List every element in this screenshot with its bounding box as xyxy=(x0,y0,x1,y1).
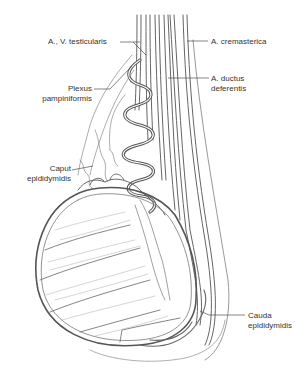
label-tail-of-epididymis: Cauda epididymidis xyxy=(248,311,292,330)
venous-network xyxy=(78,55,134,188)
label-artery-of-ductus-deferens: A. ductus deferentis xyxy=(211,74,246,93)
label-head-of-epididymis: Caput epididymidis xyxy=(17,164,71,183)
cauda-epididymidis xyxy=(90,290,225,361)
label-pampiniform-plexus: Plexus pampiniformis xyxy=(38,84,92,103)
spermatic-cord xyxy=(135,15,229,360)
label-cremasteric-artery: A. cremasterica xyxy=(211,37,267,47)
label-testicular-vessels: A., V. testicularis xyxy=(48,37,107,47)
testis xyxy=(36,187,196,345)
